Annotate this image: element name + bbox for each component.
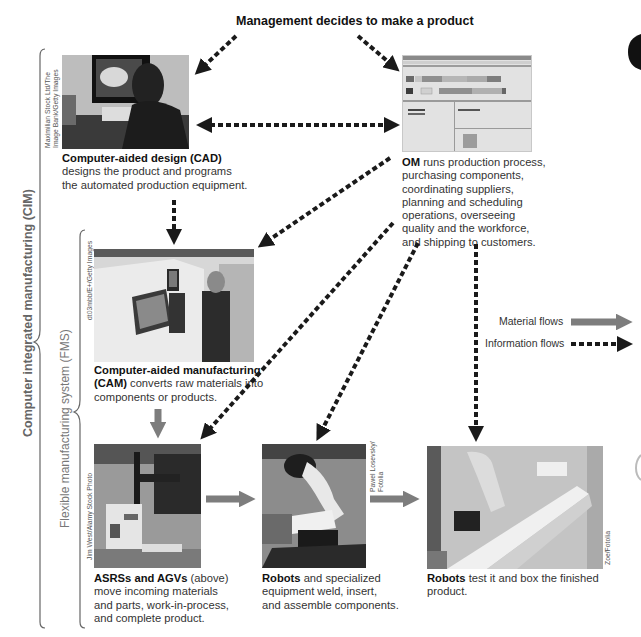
- cam-photo-illustration: [94, 249, 254, 362]
- cam-photo-credit: dt03mbb/E+/Getty Images: [86, 241, 94, 320]
- robots-assemble-credit: Pawel Losevsky/ Fotolia: [369, 441, 385, 492]
- robots-test-photo: [427, 446, 603, 569]
- cam-caption: Computer-aided manufacturing (CAM) conve…: [94, 364, 314, 404]
- legend-material-label: Material flows: [499, 315, 563, 327]
- asrs-photo-credit: Jim West/Alamy Stock Photo: [86, 473, 94, 560]
- cam-photo: [94, 249, 254, 362]
- edge-mark-bottom: [636, 455, 641, 480]
- robots-assemble-photo: [262, 444, 366, 568]
- robot-conveyor-illustration: [427, 446, 603, 569]
- fms-brace: [74, 230, 85, 628]
- edge-mark-top: [628, 34, 641, 70]
- info-arrow-om-to-cam: [266, 158, 390, 242]
- robots-assemble-caption: Robots and specialized equipment weld, i…: [262, 572, 422, 612]
- cad-caption: Computer-aided design (CAD) designs the …: [62, 152, 262, 192]
- asrs-photo-illustration: [94, 444, 201, 568]
- cim-label: Computer integrated manufacturing (CIM): [21, 189, 35, 437]
- info-arrow-mgmt-to-om: [358, 36, 392, 65]
- om-screen-illustration: [403, 56, 532, 152]
- cad-photo-credit: Maximilian Stock Ltd/The Image Bank/Gett…: [44, 69, 60, 148]
- robots-test-credit: Zoe/Fotolia: [604, 531, 612, 565]
- diagram-title: Management decides to make a product: [236, 14, 474, 28]
- robot-arm-illustration: [262, 444, 366, 568]
- om-software-screenshot: [402, 55, 532, 152]
- legend-information-label: Information flows: [485, 337, 564, 349]
- om-caption: OM runs production process, purchasing c…: [402, 156, 582, 249]
- asrs-agv-photo: [94, 444, 201, 568]
- cad-photo-illustration: [62, 55, 189, 149]
- fms-label: Flexible manufacturing system (FMS): [58, 329, 72, 528]
- robots-test-caption: Robots test it and box the finished prod…: [427, 572, 627, 599]
- cad-photo: [62, 55, 189, 149]
- info-arrow-mgmt-to-cad: [202, 36, 236, 68]
- info-arrow-om-to-robots-assemble: [321, 243, 418, 432]
